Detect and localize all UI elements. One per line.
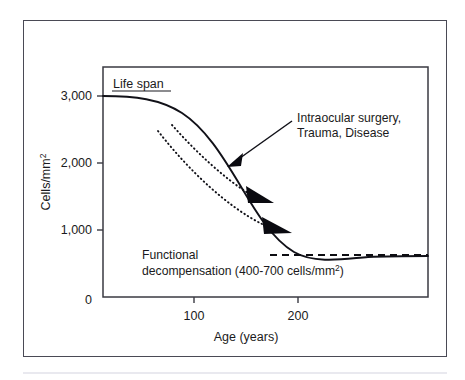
decompensation-label-paren: ) (340, 264, 344, 278)
insult-annotation-line2: Trauma, Disease (297, 126, 390, 140)
accelerated-loss-arrowhead-upper (246, 186, 274, 203)
y-axis-title-main: Cells/mm (39, 158, 53, 210)
decompensation-label-text: decompensation (400-700 cells/mm (142, 264, 335, 278)
figure-container: 3,000 2,000 1,000 0 100 200 Age (years) … (0, 0, 465, 380)
x-axis-title: Age (years) (214, 330, 279, 344)
y-tick-label-1000: 1,000 (61, 223, 92, 237)
page-bottom-rule (23, 372, 447, 374)
plot-area-frame (103, 67, 428, 297)
y-tick-label-0: 0 (85, 293, 92, 307)
x-axis-ticks (194, 297, 298, 303)
chart-svg: 3,000 2,000 1,000 0 100 200 Age (years) … (0, 0, 465, 380)
insult-annotation-line1: Intraocular surgery, (297, 111, 401, 125)
insult-annotation-arrowhead (227, 153, 243, 167)
y-axis-ticks (97, 96, 103, 230)
accelerated-loss-arrowhead-lower (262, 217, 292, 234)
decompensation-label-line2: decompensation (400-700 cells/mm2) (142, 263, 344, 278)
y-tick-label-3000: 3,000 (61, 89, 92, 103)
life-span-label: Life span (113, 77, 164, 91)
x-tick-label-100: 100 (184, 309, 205, 323)
accelerated-loss-curve-lower (158, 131, 262, 224)
decompensation-label-line1: Functional (142, 248, 198, 262)
y-axis-title: Cells/mm2 (38, 153, 53, 210)
y-axis-title-superscript: 2 (38, 153, 48, 158)
x-tick-label-200: 200 (288, 309, 309, 323)
y-tick-label-2000: 2,000 (61, 156, 92, 170)
svg-text:Cells/mm2: Cells/mm2 (38, 153, 53, 210)
